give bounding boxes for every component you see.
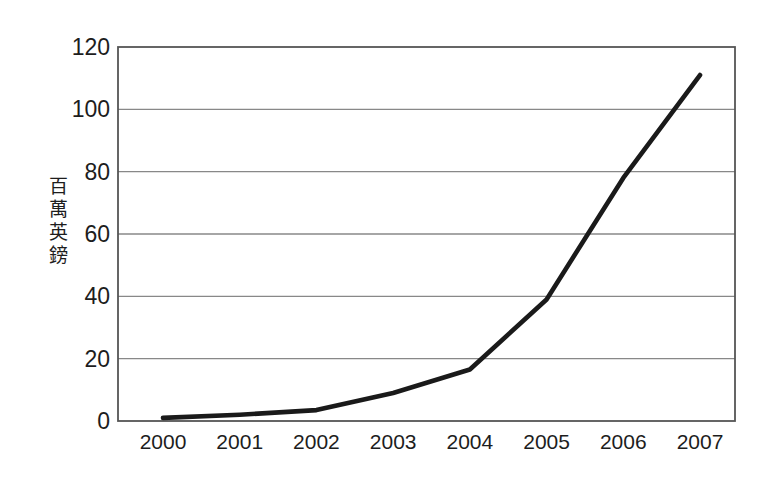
plot-area bbox=[0, 0, 781, 492]
line-chart: 百萬英鎊 020406080100120 2000200120022003200… bbox=[0, 0, 781, 492]
gridlines bbox=[118, 109, 735, 358]
data-line-series bbox=[163, 75, 700, 418]
data-line bbox=[163, 75, 700, 418]
